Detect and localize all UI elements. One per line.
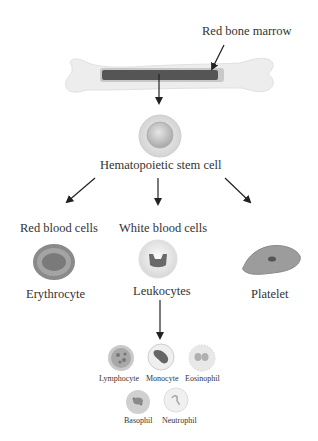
platelet-icon — [243, 245, 301, 274]
leukocytes-label: Leukocytes — [133, 284, 191, 299]
lymphocyte-icon — [108, 345, 134, 371]
basophil-icon — [126, 390, 150, 414]
neutrophil-icon — [164, 388, 188, 412]
platelet-label: Platelet — [251, 287, 289, 302]
arrow-to-platelet — [225, 178, 250, 202]
monocyte-icon — [148, 344, 174, 370]
lymphocyte-label: Lymphocyte — [99, 374, 139, 383]
basophil-label: Basophil — [124, 416, 152, 425]
arrow-to-rbc — [67, 178, 95, 202]
eosinophil-label: Eosinophil — [185, 374, 220, 383]
stem-cell-icon — [139, 115, 181, 157]
stem-cell-label: Hematopoietic stem cell — [100, 158, 221, 173]
neutrophil-label: Neutrophil — [162, 416, 197, 425]
rbc-category-label: Red blood cells — [20, 221, 98, 236]
erythrocyte-icon — [33, 244, 75, 280]
leukocyte-icon — [139, 240, 177, 278]
erythrocyte-label: Erythrocyte — [26, 287, 85, 302]
monocyte-label: Monocyte — [146, 374, 178, 383]
bone-icon — [66, 58, 274, 92]
red-bone-marrow-label: Red bone marrow — [202, 24, 292, 39]
eosinophil-icon — [189, 345, 215, 371]
wbc-category-label: White blood cells — [119, 221, 207, 236]
